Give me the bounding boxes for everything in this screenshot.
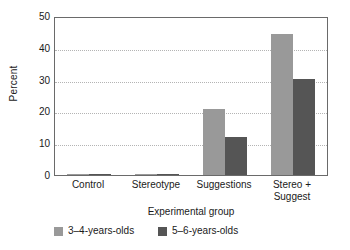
- bar-group-stereotype: [123, 18, 191, 175]
- legend-label-5-6: 5–6-years-olds: [172, 225, 238, 237]
- bar-chart-figure: Percent 50 40 30 20 10 0 Contro: [0, 0, 350, 250]
- bar-suggestions-5-6: [225, 137, 247, 175]
- legend-item-5-6-years-olds: 5–6-years-olds: [158, 225, 238, 237]
- y-tick-label: 30: [4, 76, 50, 86]
- legend-swatch-icon-5-6: [158, 227, 167, 236]
- y-axis-tick-labels: 50 40 30 20 10 0: [0, 17, 50, 176]
- x-tick-label-control: Control: [49, 179, 127, 191]
- x-axis-title: Experimental group: [54, 206, 328, 217]
- y-tick-label: 0: [4, 171, 50, 181]
- x-tick-label-stereotype: Stereotype: [117, 179, 195, 191]
- bar-group-control: [55, 18, 123, 175]
- bar-stereotype-5-6: [157, 174, 179, 175]
- legend-swatch-icon-3-4: [54, 227, 63, 236]
- bar-groups: [55, 18, 327, 175]
- bar-stereo-suggest-3-4: [271, 34, 293, 175]
- bar-group-suggestions: [191, 18, 259, 175]
- bar-stereo-suggest-5-6: [293, 79, 315, 175]
- bar-suggestions-3-4: [203, 109, 225, 175]
- y-tick-label: 10: [4, 139, 50, 149]
- legend-item-3-4-years-olds: 3–4-years-olds: [54, 225, 134, 237]
- y-tick-label: 20: [4, 107, 50, 117]
- bar-stereotype-3-4: [135, 174, 157, 175]
- x-tick-label-stereo-suggest: Stereo + Suggest: [253, 179, 331, 203]
- chart-legend: 3–4-years-olds 5–6-years-olds: [54, 225, 334, 239]
- y-tick-label: 40: [4, 44, 50, 54]
- y-tick-label: 50: [4, 12, 50, 22]
- bar-control-5-6: [89, 174, 111, 175]
- x-tick-label-suggestions: Suggestions: [185, 179, 263, 191]
- bar-group-stereo-suggest: [259, 18, 327, 175]
- legend-label-3-4: 3–4-years-olds: [68, 225, 134, 237]
- bar-control-3-4: [67, 174, 89, 175]
